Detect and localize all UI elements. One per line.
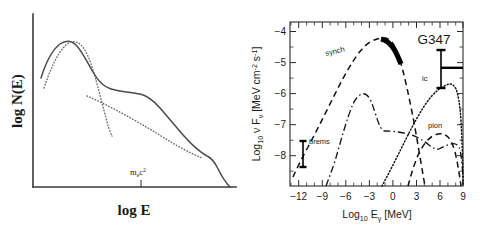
- xlab-unit: [MeV]: [384, 208, 412, 220]
- ytick--4: −4: [275, 26, 287, 37]
- left-ylabel-group: log N(E): [9, 74, 26, 128]
- label-ic: ic: [422, 74, 428, 83]
- panel-left-particle-spectrum: log N(E) log E mec2: [0, 0, 242, 232]
- xtick-0: 0: [390, 191, 396, 202]
- xtick--9: −9: [317, 191, 329, 202]
- ytick--8: −8: [275, 150, 287, 161]
- label-brems: brems: [309, 137, 330, 146]
- xlab-log: Log: [342, 208, 360, 220]
- right-x-axis-label: Log10 Eγ [MeV]: [342, 208, 411, 223]
- xlab-sub: 10: [360, 215, 368, 223]
- left-x-axis-label: log E: [118, 202, 151, 218]
- ytick--5: −5: [275, 57, 287, 68]
- xlab-var: E: [371, 208, 378, 220]
- xtick--6: −6: [340, 191, 352, 202]
- left-y-axis-label: log N(E): [9, 74, 26, 128]
- figure-root: log N(E) log E mec2: [0, 0, 483, 232]
- curve-total-solid: [41, 41, 230, 187]
- curve-powerlaw-dotted: [87, 96, 202, 158]
- ylab-var: ν F: [250, 118, 262, 133]
- label-synch: synch: [324, 44, 345, 57]
- curve-synch-thick-band: [381, 39, 401, 64]
- plot-title-g347: G347: [417, 32, 450, 47]
- ytick--7: −7: [275, 119, 287, 130]
- left-panel-svg: log N(E) log E mec2: [0, 0, 242, 232]
- xtick-3: 3: [414, 191, 420, 202]
- ylab-unit-end: ]: [250, 47, 262, 50]
- y-minor-ticks: [290, 47, 463, 171]
- right-y-axis-label: Log10 ν Fν [MeV cm-2 s-1]: [250, 47, 265, 162]
- ylab-sub: 10: [257, 136, 265, 144]
- left-mec2-annotation: mec2: [130, 167, 146, 178]
- ytick--6: −6: [275, 88, 287, 99]
- left-axes: [33, 14, 236, 187]
- x-tick-labels: −12 −9 −6 −3 0 3 6 9: [290, 191, 466, 202]
- ylab-unit: [MeV cm: [250, 70, 262, 112]
- right-panel-svg: synch brems ic pion G347 −12 −9 −6 −3 0 …: [242, 0, 483, 232]
- svg-text:mec2: mec2: [130, 167, 146, 178]
- right-ylabel-group: Log10 ν Fν [MeV cm-2 s-1]: [250, 47, 265, 162]
- ylab-unit-mid: s: [250, 56, 262, 64]
- datapoint-gamma: [437, 50, 464, 88]
- curve-thermal-dotted: [44, 42, 112, 136]
- curve-pion: [408, 134, 461, 186]
- panel-right-g347-sed: synch brems ic pion G347 −12 −9 −6 −3 0 …: [242, 0, 483, 232]
- xtick-9: 9: [460, 191, 466, 202]
- xtick-6: 6: [437, 191, 443, 202]
- mec2-sup: 2: [143, 167, 146, 173]
- xtick--12: −12: [290, 191, 307, 202]
- xtick--3: −3: [364, 191, 376, 202]
- datapoint-radio-xray: [300, 141, 307, 167]
- curve-brems: [326, 94, 463, 186]
- y-tick-labels: −4 −5 −6 −7 −8: [275, 26, 287, 161]
- curve-synch: [293, 38, 425, 186]
- ylab-log: Log: [250, 144, 262, 162]
- label-pion: pion: [428, 121, 442, 130]
